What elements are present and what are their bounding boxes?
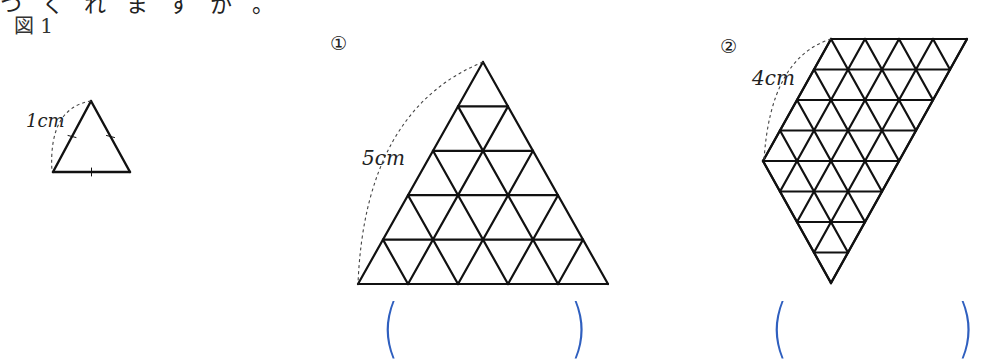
- dashed-length-arcs: [52, 39, 831, 284]
- figure-1-unit-triangle: [53, 101, 130, 176]
- answer-2-open-paren: (: [771, 296, 788, 360]
- answer-1-close-paren: ): [570, 296, 587, 360]
- answer-1-open-paren: (: [382, 296, 399, 360]
- answer-1-field[interactable]: [405, 312, 565, 352]
- problem-2-parallelogram-grid: [763, 39, 967, 283]
- problem-1-triangle-grid: [358, 62, 608, 284]
- answer-2-field[interactable]: [795, 312, 950, 352]
- answer-2-close-paren: ): [957, 296, 974, 360]
